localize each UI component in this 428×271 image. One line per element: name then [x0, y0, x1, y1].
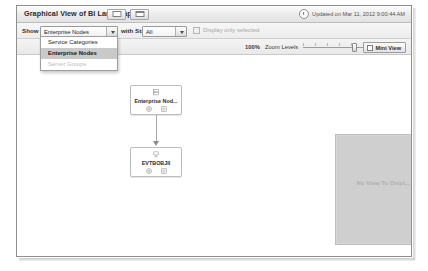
server-node-icon	[153, 89, 160, 96]
application-root: Graphical View of BI Landscape Updated o…	[0, 0, 428, 271]
graph-node-actions	[131, 106, 181, 112]
zoom-slider-thumb[interactable]	[352, 43, 357, 52]
diagram-canvas[interactable]: Enterprise Nod...	[17, 55, 411, 256]
window-titlebar: Graphical View of BI Landscape Updated o…	[17, 6, 411, 23]
expand-icon[interactable]	[146, 106, 152, 112]
display-only-selected-checkbox[interactable]	[193, 27, 200, 34]
host-node-icon	[153, 151, 160, 158]
show-label: Show	[22, 27, 39, 34]
graph-edge	[156, 115, 157, 142]
header-status-group: Updated on Mar 11, 2012 9:00:44 AM	[299, 9, 405, 19]
graph-node-label: Enterprise Nod...	[131, 98, 181, 104]
display-only-selected-label: Display only selected	[203, 27, 259, 33]
show-type-dropdown-menu[interactable]: Service Categories Enterprise Nodes Serv…	[40, 36, 118, 71]
restore-icon	[112, 11, 121, 17]
restore-button[interactable]	[107, 9, 126, 20]
last-updated-text: Updated on Mar 11, 2012 9:00:44 AM	[312, 11, 405, 17]
graph-node-enterprise[interactable]: Enterprise Nod...	[130, 85, 182, 115]
mini-view-button-label: Mini View	[376, 45, 401, 51]
menu-item-service-categories[interactable]: Service Categories	[41, 37, 117, 48]
mini-view-empty-message: No View To Displ...	[336, 180, 411, 186]
details-icon[interactable]	[161, 168, 167, 174]
zoom-levels-label: Zoom Levels	[265, 44, 298, 50]
state-filter-combobox[interactable]: All	[142, 26, 187, 37]
window-drop-shadow-bottom	[19, 258, 415, 261]
graph-node-evtbobj[interactable]: EVTBOBJII	[130, 147, 182, 177]
show-type-value: Enterprise Nodes	[44, 29, 89, 35]
chevron-down-icon[interactable]	[175, 27, 186, 36]
chevron-down-icon[interactable]	[106, 27, 117, 36]
mini-view-button[interactable]: Mini View	[363, 42, 406, 53]
expand-icon[interactable]	[146, 168, 152, 174]
maximize-icon	[135, 11, 144, 17]
graph-node-actions	[131, 168, 181, 174]
menu-item-server-groups[interactable]: Server Groups	[41, 59, 117, 70]
zoom-percent-value: 100%	[245, 44, 260, 50]
maximize-button[interactable]	[130, 9, 149, 20]
mini-view-icon	[367, 45, 373, 51]
mini-view-panel[interactable]: No View To Displ...	[335, 134, 411, 245]
window-drop-shadow-right	[413, 8, 416, 260]
graph-node-label: EVTBOBJII	[131, 160, 181, 166]
state-filter-value: All	[146, 29, 152, 35]
graph-edge-arrow-icon	[153, 141, 159, 146]
details-icon[interactable]	[161, 106, 167, 112]
display-only-selected-group[interactable]: Display only selected	[193, 27, 259, 34]
graphical-view-window: Graphical View of BI Landscape Updated o…	[16, 5, 412, 257]
clock-icon	[299, 9, 309, 19]
menu-item-enterprise-nodes[interactable]: Enterprise Nodes	[41, 48, 117, 59]
